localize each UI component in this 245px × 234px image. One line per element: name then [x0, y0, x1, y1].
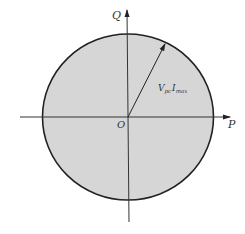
p-axis-label: P: [227, 118, 236, 131]
origin-label: O: [117, 119, 125, 130]
q-axis-label: Q: [112, 9, 121, 22]
pq-diagram: Q P O VpcImax: [0, 0, 245, 234]
